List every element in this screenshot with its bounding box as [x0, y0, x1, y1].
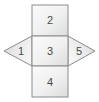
- face-bottom-square: 4: [32, 66, 68, 97]
- face-top-label: 2: [47, 14, 53, 26]
- face-right-triangle: 5: [68, 36, 95, 66]
- face-top-square: 2: [32, 5, 68, 36]
- net-diagram-canvas: 1 5 2 3 4: [0, 0, 99, 102]
- face-center-label: 3: [47, 45, 53, 57]
- face-bottom-label: 4: [47, 76, 53, 88]
- face-left-label: 1: [18, 45, 24, 57]
- net-diagram: 1 5 2 3 4: [0, 0, 99, 102]
- face-right-label: 5: [76, 45, 82, 57]
- face-left-triangle: 1: [4, 36, 32, 66]
- face-center-square: 3: [32, 36, 68, 66]
